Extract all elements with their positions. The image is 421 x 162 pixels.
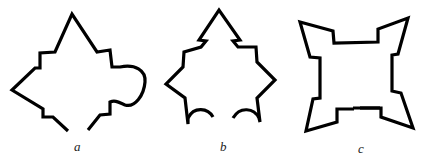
- label-a: a: [74, 139, 81, 155]
- shape-a: [12, 14, 145, 131]
- label-c: c: [358, 141, 364, 157]
- shape-c: [300, 18, 413, 131]
- shape-b: [166, 10, 275, 124]
- fortress-diagrams: [0, 0, 421, 162]
- label-b: b: [220, 139, 227, 155]
